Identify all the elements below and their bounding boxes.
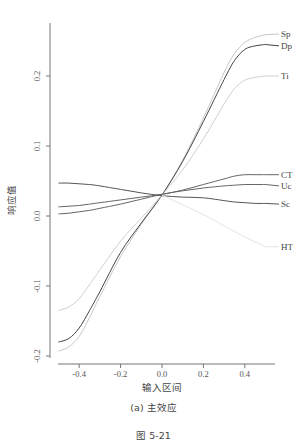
y-tick-label: -0.2 bbox=[32, 349, 42, 362]
series-line-ht bbox=[162, 195, 279, 247]
y-ticks: -0.2-0.10.00.10.2 bbox=[32, 71, 50, 363]
series-label-dp: Dp bbox=[281, 41, 292, 51]
y-tick-label: -0.1 bbox=[32, 279, 42, 292]
series-label-ct: CT bbox=[281, 170, 293, 180]
x-tick-label: -0.2 bbox=[114, 369, 127, 379]
y-tick-label: 0.2 bbox=[32, 71, 42, 82]
x-tick-label: 0.2 bbox=[198, 369, 209, 379]
series-label-uc: Uc bbox=[281, 181, 292, 191]
main-effect-chart: -0.2-0.10.00.10.2 -0.4-0.20.00.20.4 SpDp… bbox=[0, 0, 307, 448]
x-axis-title: 输入区间 bbox=[142, 382, 182, 393]
series-label-sp: Sp bbox=[281, 29, 291, 39]
x-tick-label: -0.4 bbox=[72, 369, 86, 379]
axes: -0.2-0.10.00.10.2 -0.4-0.20.00.20.4 bbox=[32, 23, 275, 379]
y-axis-title: 响应值 bbox=[6, 185, 17, 215]
subfigure-caption: (a) 主效应 bbox=[0, 400, 307, 414]
y-tick-label: 0.1 bbox=[32, 141, 42, 152]
x-ticks: -0.4-0.20.00.20.4 bbox=[72, 364, 250, 379]
series-labels: SpDpTiCTUcScHT bbox=[281, 29, 293, 252]
x-tick-label: 0.4 bbox=[239, 369, 250, 379]
figure-caption: 图 5-21 bbox=[0, 428, 307, 442]
series-label-sc: Sc bbox=[281, 199, 290, 209]
series-line-uc bbox=[59, 184, 280, 213]
series-line-ct bbox=[59, 175, 280, 207]
series-label-ht: HT bbox=[281, 242, 293, 252]
series-lines bbox=[59, 34, 280, 351]
y-tick-label: 0.0 bbox=[32, 211, 42, 222]
series-label-ti: Ti bbox=[281, 71, 289, 81]
x-tick-label: 0.0 bbox=[157, 369, 168, 379]
